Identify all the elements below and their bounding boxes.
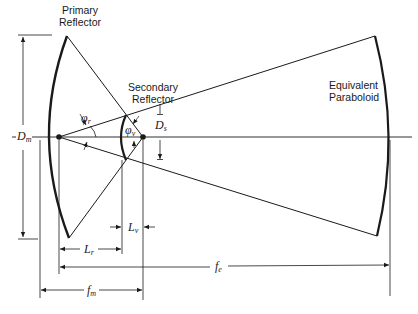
phi-v-sub: v	[132, 129, 136, 138]
equivalent-paraboloid-label-line1: Equivalent	[329, 79, 379, 91]
phi-r-symbol: φr	[81, 112, 91, 128]
phi-v-main: φ	[125, 123, 132, 137]
primary-reflector-label: Primary Reflector	[40, 4, 120, 28]
phi-r-angle-arc	[90, 126, 96, 137]
ds-main: D	[155, 118, 164, 132]
secondary-reflector-label: Secondary Reflector	[108, 81, 198, 105]
fe-symbol: fe	[215, 260, 222, 276]
secondary-reflector-label-line2: Reflector	[108, 93, 198, 105]
primary-focus-point	[56, 134, 62, 140]
dm-main: D	[17, 129, 26, 143]
secondary-reflector-label-line1: Secondary	[108, 81, 198, 93]
lr-sub: r	[91, 248, 94, 257]
dm-sub: m	[26, 135, 32, 144]
equivalent-paraboloid-curve	[375, 36, 389, 236]
lr-main: L	[84, 242, 91, 256]
ds-symbol: Ds	[154, 119, 168, 135]
lr-symbol: Lr	[84, 243, 94, 259]
fe-sub: e	[218, 265, 222, 274]
equivalent-paraboloid-label: Equivalent Paraboloid	[329, 79, 379, 103]
feed-point	[140, 134, 146, 140]
lv-symbol: Lv	[128, 221, 138, 237]
phi-r-main: φ	[81, 111, 88, 125]
lv-sub: v	[135, 226, 139, 235]
equivalent-paraboloid-label-line2: Paraboloid	[329, 91, 379, 103]
primary-reflector-label-line1: Primary	[40, 4, 120, 16]
lv-main: L	[128, 220, 135, 234]
phi-r-sub: r	[88, 117, 91, 126]
fm-sub: m	[90, 289, 96, 298]
dm-symbol: Dm	[16, 130, 32, 146]
fm-symbol: fm	[87, 284, 96, 300]
reflector-geometry-diagram	[0, 0, 418, 314]
fe-arrow-right	[228, 265, 389, 266]
phi-v-pointer-top	[133, 116, 139, 124]
primary-reflector-label-line2: Reflector	[40, 16, 120, 28]
ds-sub: s	[164, 124, 167, 133]
ray-focus-to-paraboloid-top	[59, 36, 375, 137]
phi-v-symbol: φv	[125, 124, 135, 140]
